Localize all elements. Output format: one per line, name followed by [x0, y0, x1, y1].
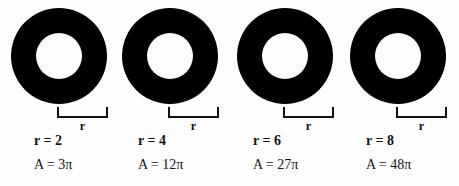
radius-bracket-1	[57, 107, 108, 118]
annulus-hole-1	[36, 33, 82, 79]
radius-bracket-label-4: r	[396, 120, 447, 132]
annulus-series-diagram: r r = 2 A = 3π r r = 4 A = 12π r r = 6 A…	[0, 0, 459, 186]
area-caption-3: A = 27π	[253, 157, 298, 172]
annulus-figure-3: r r = 6 A = 27π	[231, 0, 345, 186]
annulus-figure-2: r r = 4 A = 12π	[118, 0, 231, 186]
radius-bracket-3	[283, 107, 334, 118]
radius-bracket-label-1: r	[57, 120, 108, 132]
radius-bracket-label-3: r	[283, 120, 334, 132]
annulus-hole-3	[262, 33, 308, 79]
annulus-figure-1: r r = 2 A = 3π	[0, 0, 118, 186]
radius-bracket-label-2: r	[168, 120, 219, 132]
annulus-ring-1	[11, 8, 107, 104]
annulus-ring-4	[350, 8, 446, 104]
radius-bracket-2	[168, 107, 219, 118]
radius-caption-2: r = 4	[138, 133, 166, 148]
radius-caption-3: r = 6	[253, 133, 281, 148]
annulus-hole-4	[375, 33, 421, 79]
annulus-ring-3	[237, 8, 333, 104]
area-caption-1: A = 3π	[34, 157, 72, 172]
radius-bracket-4	[396, 107, 447, 118]
area-caption-2: A = 12π	[138, 157, 183, 172]
radius-caption-1: r = 2	[34, 133, 62, 148]
annulus-ring-2	[122, 8, 218, 104]
annulus-figure-4: r r = 8 A = 48π	[345, 0, 459, 186]
annulus-hole-2	[147, 33, 193, 79]
area-caption-4: A = 48π	[366, 157, 411, 172]
radius-caption-4: r = 8	[366, 133, 394, 148]
